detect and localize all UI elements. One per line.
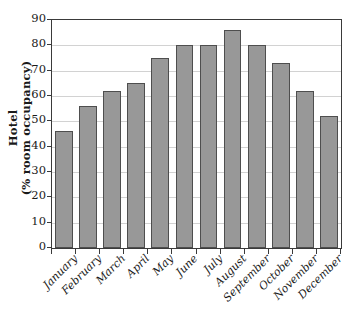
- y-axis-tick-label: 70: [24, 64, 46, 76]
- bar: [296, 91, 314, 248]
- y-axis-tick-label: 80: [24, 39, 46, 51]
- bar: [200, 45, 218, 248]
- y-axis-title-line1: Hotel: [7, 60, 20, 195]
- bar: [176, 45, 194, 248]
- bar: [272, 63, 290, 248]
- y-axis-tick-label: 60: [24, 89, 46, 101]
- x-axis-tick-label: June: [174, 252, 201, 279]
- bar: [79, 106, 97, 248]
- bar: [224, 30, 242, 248]
- bar-slot: [293, 20, 317, 248]
- bar-slot: [196, 20, 220, 248]
- y-axis-tick-label: 90: [24, 13, 46, 25]
- bar-chart: Hotel (% room occupancy) 010203040506070…: [0, 0, 353, 312]
- bar: [103, 91, 121, 248]
- bar-series: [52, 20, 341, 248]
- bar-slot: [317, 20, 341, 248]
- bar: [248, 45, 266, 248]
- bar: [127, 83, 145, 248]
- bar: [320, 116, 338, 248]
- bar: [55, 131, 73, 248]
- bar-slot: [148, 20, 172, 248]
- y-axis-tick-label: 30: [24, 165, 46, 177]
- y-axis-tick-label: 50: [24, 115, 46, 127]
- x-axis-tick-label: April: [124, 252, 152, 280]
- y-axis-tick-label: 20: [24, 191, 46, 203]
- y-axis-tick-label: 40: [24, 140, 46, 152]
- bar-slot: [124, 20, 148, 248]
- bar-slot: [76, 20, 100, 248]
- bar-slot: [52, 20, 76, 248]
- y-axis-tick-label: 10: [24, 216, 46, 228]
- bar-slot: [221, 20, 245, 248]
- bar-slot: [172, 20, 196, 248]
- x-axis-tick-labels: JanuaryFebruaryMarchAprilMayJuneJulyAugu…: [0, 252, 353, 312]
- bar-slot: [269, 20, 293, 248]
- plot-area: [51, 19, 342, 249]
- bar-slot: [245, 20, 269, 248]
- bar-slot: [100, 20, 124, 248]
- x-axis-tick-label: May: [150, 252, 176, 278]
- bar: [151, 58, 169, 248]
